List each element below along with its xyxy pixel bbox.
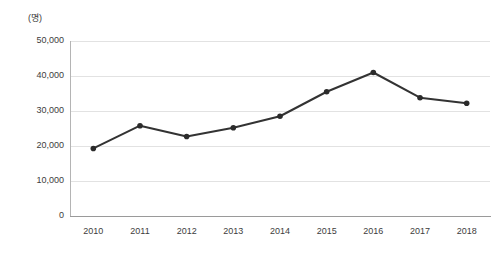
x-axis-tick-label: 2018	[444, 226, 490, 236]
data-point-marker	[464, 101, 470, 107]
data-point-marker	[277, 113, 283, 119]
x-axis-tick-label: 2015	[304, 226, 350, 236]
data-point-marker	[137, 123, 143, 129]
x-axis-tick-label: 2010	[70, 226, 116, 236]
data-point-marker	[371, 70, 377, 76]
data-series-layer	[0, 0, 502, 260]
data-point-marker	[231, 125, 237, 131]
x-axis-tick-label: 2013	[210, 226, 256, 236]
x-axis-tick-label: 2012	[164, 226, 210, 236]
x-axis-tick-label: 2011	[117, 226, 163, 236]
line-chart: (명) 010,00020,00030,00040,00050,000 2010…	[0, 0, 502, 260]
data-point-marker	[324, 89, 330, 95]
x-axis-tick-labels: 201020112012201320142015201620172018	[70, 226, 490, 242]
data-point-marker	[91, 146, 97, 152]
x-axis-tick-label: 2017	[397, 226, 443, 236]
series-line	[93, 73, 466, 149]
data-point-marker	[184, 134, 190, 140]
x-axis-tick-label: 2016	[350, 226, 396, 236]
data-point-marker	[417, 95, 423, 101]
x-axis-tick-label: 2014	[257, 226, 303, 236]
